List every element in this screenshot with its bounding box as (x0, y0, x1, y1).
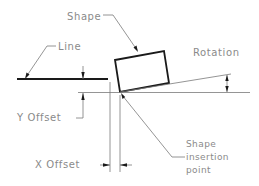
line-label: Line (58, 41, 81, 52)
insertion-point-label-line3: point (186, 165, 211, 175)
y-offset-arrow-down-icon (81, 72, 84, 79)
rotation-arrow-up-icon (225, 75, 228, 81)
insertion-point-label-line1: Shape (186, 139, 216, 149)
line-leader (26, 46, 56, 77)
rotation-label: Rotation (193, 47, 240, 58)
shape-rectangle (115, 51, 169, 92)
y-offset-arrow-up-icon (81, 93, 84, 100)
shape-label: Shape (67, 11, 101, 22)
insertion-point-label-line2: insertion (186, 152, 229, 162)
y-offset-label: Y Offset (16, 112, 61, 123)
insertion-point-leader (122, 95, 185, 157)
shape-offset-diagram: Y Offset X Offset Shape Line Rotation Sh… (0, 0, 259, 186)
x-offset-label: X Offset (35, 159, 80, 170)
x-offset-arrow-left-icon (120, 163, 127, 166)
shape-leader (103, 15, 137, 50)
x-offset-arrow-right-icon (103, 163, 110, 166)
rotation-arrow-down-icon (225, 86, 228, 92)
